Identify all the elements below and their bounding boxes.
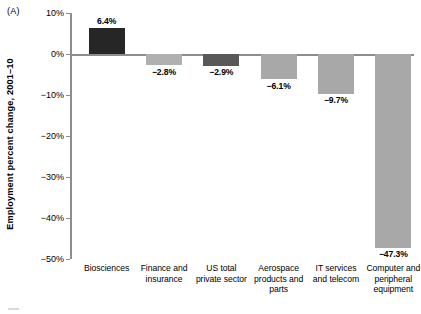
- y-tick-mark: [66, 95, 70, 96]
- y-tick-label: −40%: [41, 214, 64, 223]
- next-panel-edge-artifact: [8, 308, 19, 310]
- panel-letter: (A): [7, 6, 20, 16]
- y-tick-label: −30%: [41, 173, 64, 182]
- category-label: IT servicesand telecom: [305, 263, 367, 284]
- y-tick-mark: [66, 218, 70, 219]
- y-tick-mark: [66, 54, 70, 55]
- bar: [146, 54, 182, 65]
- category-label-line: parts: [269, 284, 288, 294]
- category-label-line: Finance and: [141, 263, 188, 273]
- bar: [89, 28, 125, 54]
- figure-panel-a: (A) Employment percent change, 2001–10 1…: [0, 0, 421, 314]
- y-tick-label: 10%: [46, 9, 64, 18]
- category-label-line: Aerospace: [258, 263, 299, 273]
- bar-value-label: −6.1%: [249, 82, 309, 91]
- bar-value-label: −47.3%: [363, 250, 421, 259]
- category-label-line: US total: [206, 263, 236, 273]
- category-label-line: products and: [254, 274, 303, 284]
- category-label: Finance andinsurance: [133, 263, 195, 284]
- y-tick-mark: [66, 177, 70, 178]
- y-tick-label: −50%: [41, 255, 64, 264]
- category-label-line: and telecom: [313, 274, 359, 284]
- y-tick-mark: [66, 13, 70, 14]
- category-label-line: Biosciences: [84, 263, 129, 273]
- y-tick-label: −10%: [41, 91, 64, 100]
- y-axis-title: Employment percent change, 2001–10: [5, 58, 15, 230]
- category-label: Aerospaceproducts andparts: [248, 263, 310, 295]
- zero-baseline: [70, 54, 414, 56]
- plot-area: 10%0%−10%−20%−30%−40%−50% 6.4%−2.8%−2.9%…: [70, 13, 414, 259]
- y-tick-mark: [66, 136, 70, 137]
- bar: [261, 54, 297, 79]
- bar-value-label: −9.7%: [306, 96, 366, 105]
- y-tick-label: 0%: [51, 50, 64, 59]
- category-label-line: equipment: [373, 284, 413, 294]
- category-label-line: insurance: [146, 274, 183, 284]
- y-tick-label: −20%: [41, 132, 64, 141]
- category-label-line: Computer and: [366, 263, 420, 273]
- y-axis-line: [70, 13, 72, 259]
- category-label: US totalprivate sector: [190, 263, 252, 284]
- bar-value-label: −2.8%: [134, 68, 194, 77]
- category-label: Computer andperipheralequipment: [362, 263, 421, 295]
- bar: [203, 54, 239, 66]
- bar-value-label: 6.4%: [77, 17, 137, 26]
- bar: [375, 54, 411, 248]
- category-label-line: private sector: [196, 274, 247, 284]
- category-label-line: IT services: [316, 263, 357, 273]
- bar: [318, 54, 354, 94]
- category-label-line: peripheral: [374, 274, 412, 284]
- category-label: Biosciences: [76, 263, 138, 274]
- y-axis-title-container: Employment percent change, 2001–10: [0, 22, 20, 266]
- y-tick-mark: [66, 259, 70, 260]
- bar-value-label: −2.9%: [191, 68, 251, 77]
